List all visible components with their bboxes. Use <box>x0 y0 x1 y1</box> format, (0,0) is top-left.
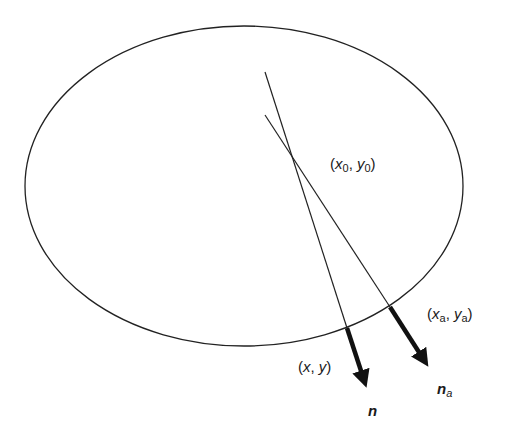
comma: , <box>446 305 454 322</box>
diagram-canvas <box>0 0 514 434</box>
normal-vector-n-arrow <box>347 328 364 380</box>
comma: , <box>311 358 319 375</box>
normal-line-n <box>265 72 347 328</box>
center-point-label: (x0, y0) <box>330 156 376 171</box>
var-x: x <box>432 305 440 322</box>
paren-close: ) <box>371 155 376 172</box>
normal-n-label: n <box>368 403 377 418</box>
sub-a: a <box>446 387 452 399</box>
surface-point-label: (x, y) <box>298 359 331 374</box>
actual-point-label: (xa, ya) <box>427 306 473 321</box>
var-x: x <box>303 358 311 375</box>
var-x: x <box>335 155 343 172</box>
paren-close: ) <box>326 358 331 375</box>
normal-vector-na-arrow <box>390 307 424 360</box>
paren-close: ) <box>468 305 473 322</box>
boundary-ellipse <box>25 26 463 346</box>
comma: , <box>349 155 357 172</box>
normal-line-na <box>265 115 390 307</box>
var-n: n <box>368 402 377 419</box>
var-n: n <box>437 380 446 397</box>
normal-na-label: na <box>437 381 452 396</box>
